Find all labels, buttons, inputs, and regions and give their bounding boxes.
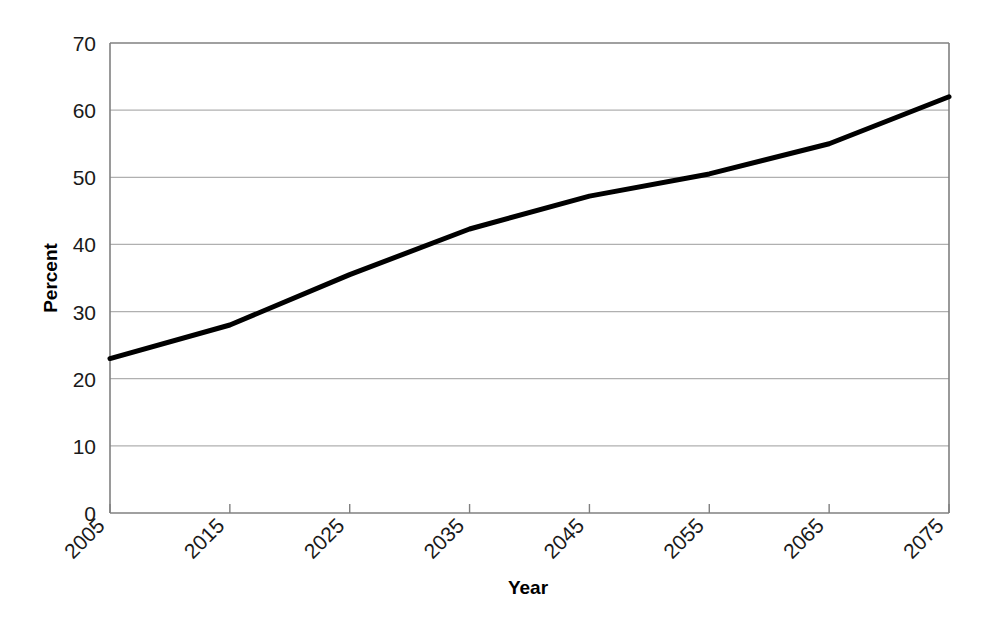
x-tick-label-2075: 2075: [899, 514, 948, 563]
x-tick-label-2055: 2055: [659, 514, 708, 563]
chart-container: 010203040506070 200520152025203520452055…: [0, 0, 1007, 629]
y-tick-label-30: 30: [73, 301, 96, 324]
y-tick-label-60: 60: [73, 99, 96, 122]
y-tick-label-50: 50: [73, 166, 96, 189]
line-chart: 010203040506070 200520152025203520452055…: [0, 0, 1007, 629]
x-axis-title: Year: [508, 577, 549, 598]
x-tick-label-2035: 2035: [419, 514, 468, 563]
y-tick-label-20: 20: [73, 368, 96, 391]
x-tick-labels: 20052015202520352045205520652075: [60, 514, 948, 563]
x-tick-label-2015: 2015: [179, 514, 228, 563]
y-tick-label-10: 10: [73, 435, 96, 458]
y-tick-label-40: 40: [73, 233, 96, 256]
x-tick-label-2045: 2045: [539, 514, 588, 563]
y-axis-title: Percent: [40, 242, 61, 312]
plot-background: [110, 43, 949, 513]
x-tick-label-2005: 2005: [60, 514, 109, 563]
y-tick-label-70: 70: [73, 32, 96, 55]
x-tick-label-2025: 2025: [299, 514, 348, 563]
x-tick-label-2065: 2065: [779, 514, 828, 563]
y-tick-labels: 010203040506070: [73, 32, 96, 525]
